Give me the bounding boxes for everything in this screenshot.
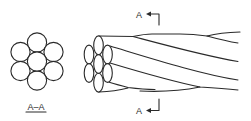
arrow-left-icon xyxy=(146,12,151,17)
section-marker-letter: A xyxy=(136,106,142,116)
end-wire-top xyxy=(94,36,104,55)
wire-rope-diagram: A–A A A xyxy=(0,0,251,121)
section-label: A–A xyxy=(27,102,44,112)
outer-wire-upper-left xyxy=(11,42,30,61)
outer-wire-upper-right xyxy=(44,42,63,61)
rope-top-outline xyxy=(99,32,240,37)
cross-section-view: A–A xyxy=(11,33,63,112)
rope-side-view xyxy=(84,32,240,92)
section-marker-letter: A xyxy=(136,10,142,20)
strand-line xyxy=(110,46,238,80)
outer-wire-lower-right xyxy=(44,61,63,80)
section-marker-top: A xyxy=(136,10,159,25)
end-wire-center xyxy=(94,55,104,74)
strand-line xyxy=(207,36,238,43)
section-marker-bottom: A xyxy=(136,99,159,116)
end-wire-upper-left xyxy=(84,45,94,64)
strand-line xyxy=(105,81,155,90)
outer-wire-lower-left xyxy=(11,61,30,80)
center-wire xyxy=(27,52,46,71)
outer-wire-top xyxy=(27,33,46,52)
end-wire-upper-right xyxy=(103,45,113,64)
end-wire-bottom xyxy=(94,73,104,92)
outer-wire-bottom xyxy=(27,71,46,90)
end-wire-lower-left xyxy=(84,64,94,83)
arrow-left-icon xyxy=(146,108,151,113)
end-wire-lower-right xyxy=(103,64,113,83)
